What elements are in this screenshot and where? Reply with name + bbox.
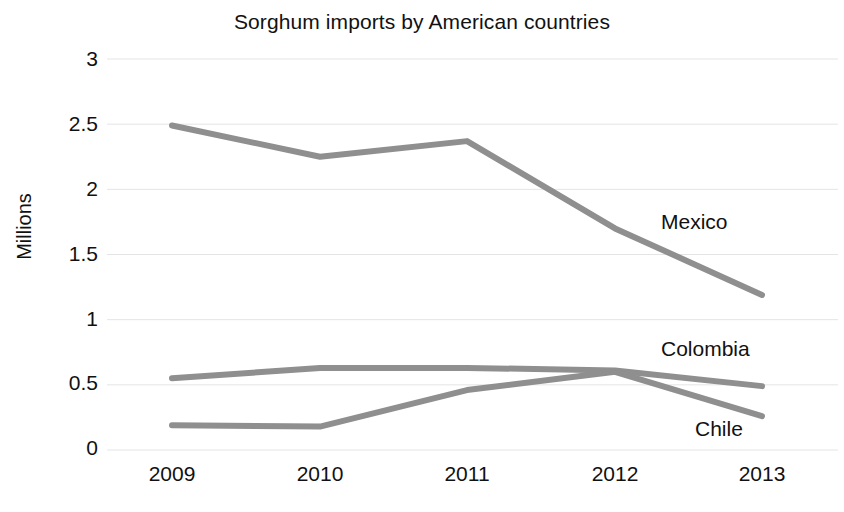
series-lines xyxy=(172,125,762,426)
x-tick-label-2012: 2012 xyxy=(565,462,665,486)
series-line-colombia xyxy=(172,368,762,386)
x-tick-label-2009: 2009 xyxy=(122,462,222,486)
line-chart: Sorghum imports by American countries Mi… xyxy=(0,0,844,512)
x-tick-label-2013: 2013 xyxy=(712,462,812,486)
series-line-chile xyxy=(172,372,762,427)
x-tick-label-2011: 2011 xyxy=(417,462,517,486)
series-label-colombia: Colombia xyxy=(661,337,750,361)
series-label-chile: Chile xyxy=(695,417,743,441)
x-tick-label-2010: 2010 xyxy=(270,462,370,486)
series-label-mexico: Mexico xyxy=(661,210,728,234)
